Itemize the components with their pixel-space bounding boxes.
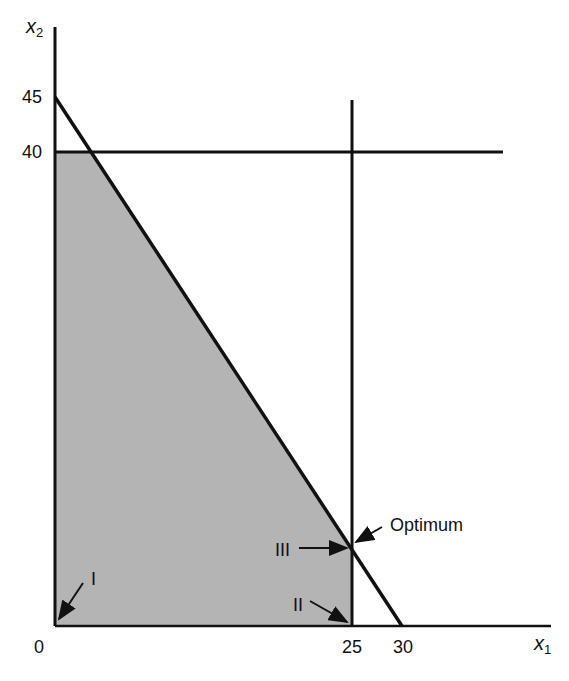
tick-30: 30	[393, 638, 413, 656]
tick-40: 40	[22, 143, 42, 161]
tick-45: 45	[22, 88, 42, 106]
annotation-optimum: Optimum	[390, 516, 463, 534]
annotation-III: III	[275, 541, 290, 559]
tick-25: 25	[342, 638, 362, 656]
lp-diagram	[0, 0, 569, 681]
feasible-region	[55, 152, 352, 626]
y-axis-label: x2	[26, 16, 43, 39]
annotation-I: I	[91, 570, 96, 588]
arrow-optimum	[356, 527, 382, 542]
tick-0: 0	[34, 638, 44, 656]
annotation-II: II	[293, 596, 303, 614]
x-axis-label: x1	[534, 633, 551, 656]
